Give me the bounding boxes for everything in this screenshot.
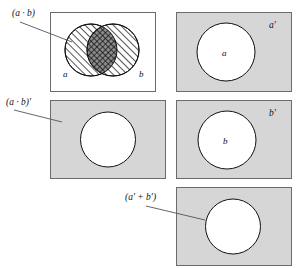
demorgan-venn-figure: a b (a · b) a a' (a · b)' b b' (a' (0, 0, 301, 268)
label-a-inner: a (63, 70, 68, 79)
label-a-dot-b-prime: (a · b)' (6, 98, 31, 108)
label-a-circle-inner: a (222, 49, 227, 58)
label-a-prime-corner: a' (269, 21, 276, 31)
venn-a-prime-plus-b-prime-graphic (177, 188, 291, 265)
label-b-inner: b (139, 70, 144, 79)
panel-a-prime-plus-b-prime (176, 187, 292, 266)
label-a-prime-plus-b-prime: (a' + b') (125, 193, 156, 203)
label-b-circle-inner: b (223, 137, 228, 146)
lens-shape (206, 199, 261, 254)
label-a-dot-b: (a · b) (12, 9, 35, 19)
panel-b-prime: b b' (176, 100, 292, 179)
venn-a-dot-b-prime-graphic (51, 101, 165, 178)
panel-a-prime: a a' (176, 12, 292, 92)
lens-shape (81, 112, 136, 167)
venn-a-dot-b-graphic (51, 13, 155, 91)
panel-a-dot-b-prime (50, 100, 166, 179)
label-b-prime-corner: b' (269, 109, 276, 119)
panel-a-dot-b: a b (50, 12, 156, 92)
